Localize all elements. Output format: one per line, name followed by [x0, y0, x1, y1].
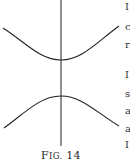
margin-fragment: s — [125, 89, 130, 99]
margin-fragment: a — [125, 124, 130, 134]
margin-fragment: a — [125, 106, 130, 116]
hyperbola-plot — [0, 0, 130, 165]
margin-fragment: r — [125, 40, 130, 50]
figure-14: FIG. 14 I c r I s a a I — [0, 0, 130, 165]
figure-caption: FIG. 14 — [0, 149, 122, 162]
caption-number: 14 — [62, 149, 80, 162]
margin-fragment: I — [125, 70, 129, 80]
margin-fragment: I — [125, 140, 129, 150]
margin-fragment: c — [125, 22, 130, 32]
caption-prefix: F — [41, 149, 49, 162]
caption-smallcaps: IG. — [49, 151, 62, 161]
margin-fragment: I — [125, 2, 129, 12]
